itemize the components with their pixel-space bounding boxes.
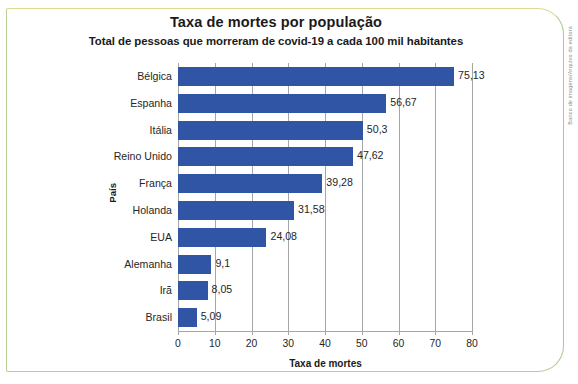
category-label: Alemanha	[52, 258, 172, 270]
bar-row[interactable]: 47,62	[178, 147, 472, 166]
x-axis-tick-label: 0	[158, 338, 198, 349]
bar-row[interactable]: 75,13	[178, 67, 472, 86]
bar-row[interactable]: 56,67	[178, 94, 472, 113]
image-credit: Banco de imagens/Arquivo da editora	[563, 26, 577, 226]
category-label: Bélgica	[52, 70, 172, 82]
plot-area: 75,1356,6750,347,6239,2831,5824,089,18,0…	[178, 63, 472, 331]
bar-value-label: 9,1	[215, 257, 230, 269]
bar[interactable]	[178, 174, 322, 193]
x-axis-tick-label: 20	[232, 338, 272, 349]
x-axis-tick	[399, 331, 400, 335]
bar[interactable]	[178, 67, 454, 86]
x-axis-tick	[252, 331, 253, 335]
category-label: Brasil	[52, 311, 172, 323]
bar[interactable]	[178, 147, 353, 166]
bar-value-label: 8,05	[212, 283, 233, 295]
category-label: Holanda	[52, 204, 172, 216]
x-axis-tick-label: 80	[452, 338, 492, 349]
category-label: Reino Unido	[52, 150, 172, 162]
category-label: Irã	[52, 284, 172, 296]
x-axis-tick-label: 40	[305, 338, 345, 349]
bar-value-label: 47,62	[357, 149, 384, 161]
x-axis-tick	[178, 331, 179, 335]
x-axis-tick	[472, 331, 473, 335]
bar[interactable]	[178, 121, 363, 140]
x-axis-tick-label: 10	[195, 338, 235, 349]
bar-row[interactable]: 24,08	[178, 228, 472, 247]
x-axis-tick	[325, 331, 326, 335]
x-axis-tick-label: 30	[268, 338, 308, 349]
bar[interactable]	[178, 281, 208, 300]
bar-value-label: 56,67	[390, 96, 417, 108]
bar[interactable]	[178, 228, 266, 247]
chart-title: Taxa de mortes por população	[20, 14, 532, 30]
x-axis-tick-label: 60	[379, 338, 419, 349]
bar-value-label: 24,08	[270, 230, 297, 242]
x-axis-tick-label: 50	[342, 338, 382, 349]
category-label: Espanha	[52, 97, 172, 109]
bar-row[interactable]: 31,58	[178, 201, 472, 220]
x-axis-tick	[288, 331, 289, 335]
bar-value-label: 31,58	[298, 203, 325, 215]
bar[interactable]	[178, 308, 197, 327]
category-label: França	[52, 177, 172, 189]
bar-value-label: 39,28	[326, 176, 353, 188]
bar[interactable]	[178, 94, 386, 113]
bar-value-label: 5,09	[201, 310, 222, 322]
bar-value-label: 50,3	[367, 123, 388, 135]
bar-row[interactable]: 39,28	[178, 174, 472, 193]
bar-row[interactable]: 50,3	[178, 121, 472, 140]
category-label: EUA	[52, 231, 172, 243]
x-axis-tick	[362, 331, 363, 335]
bar[interactable]	[178, 201, 294, 220]
x-axis-tick	[215, 331, 216, 335]
bar-row[interactable]: 5,09	[178, 308, 472, 327]
bar-row[interactable]: 8,05	[178, 281, 472, 300]
x-axis-title: Taxa de mortes	[178, 358, 473, 369]
x-axis-tick-label: 70	[415, 338, 455, 349]
bar[interactable]	[178, 255, 211, 274]
gridline	[472, 63, 473, 331]
bar-row[interactable]: 9,1	[178, 255, 472, 274]
chart-subtitle: Total de pessoas que morreram de covid-1…	[20, 35, 532, 47]
image-credit-text: Banco de imagens/Arquivo da editora	[567, 26, 573, 125]
category-label-column: BélgicaEspanhaItáliaReino UnidoFrançaHol…	[48, 63, 172, 331]
category-label: Itália	[52, 124, 172, 136]
x-axis-tick	[435, 331, 436, 335]
bar-value-label: 75,13	[458, 69, 485, 81]
